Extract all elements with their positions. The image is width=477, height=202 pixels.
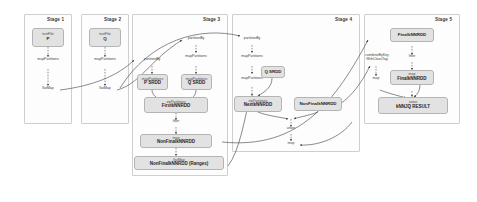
diagram-canvas: Stage 1 Stage 2 Stage 3 Stage 4 Stage 5 xyxy=(0,0,477,202)
stage-box-4 xyxy=(232,14,360,152)
edge-label-s2-flatmap: flatMap xyxy=(93,87,117,91)
combinebykey-line2: WithClassTag xyxy=(366,57,387,61)
edge-label-s4-partitionby: partitionBy xyxy=(235,37,269,41)
node-s4-nextknnrdd[interactable]: zipPartitions NextkNNRDD xyxy=(234,96,282,112)
edge-label-s3-filter: filter xyxy=(164,120,188,124)
node-rdd-label: FinalkNNRDD xyxy=(397,77,426,82)
node-s5-finalknnrdd-top[interactable]: FinalkNNRDD xyxy=(390,28,434,42)
edge-label-s2-mappartitions: mapPartitions xyxy=(88,58,122,62)
edge-label-s4-union: union xyxy=(279,127,303,131)
node-rdd-label: P xyxy=(47,37,50,42)
stage-title-3: Stage 3 xyxy=(203,17,220,22)
edge-label-s1-mappartitions: mapPartitions xyxy=(31,58,65,62)
node-rdd-label: P SRDD xyxy=(144,81,161,86)
edge-label-s5-combinebykey: combineByKeyWithClassTag xyxy=(358,54,396,62)
edge-label-s4-mappartitions-1: mapPartitions xyxy=(235,55,269,59)
edge-label-s3-partitionby-top: partitionBy xyxy=(179,37,213,41)
node-rdd-label: FinalkNNRDD xyxy=(398,33,427,38)
node-rdd-label: kNNJQ RESULT xyxy=(396,105,430,110)
node-s3-nonfinalknnrdd[interactable]: map NonFinalkNNRDD xyxy=(140,134,212,148)
edge-label-s5-map: map xyxy=(366,77,386,81)
edge-label-s3-partitionby-left: partitionBy xyxy=(135,58,169,62)
node-s5-knnjq-result[interactable]: union kNNJQ RESULT xyxy=(378,97,448,114)
node-s3-firstknnrdd[interactable]: zipPartitions FirstkNNRDD xyxy=(144,97,208,113)
node-rdd-label: Q SRDD xyxy=(188,81,206,86)
stage-title-4: Stage 4 xyxy=(335,17,352,22)
edge-label-s4-map: map xyxy=(281,142,301,146)
node-s3-p-srdd[interactable]: mapPartitions P SRDD xyxy=(137,74,168,90)
node-s4-nonfinalknnrdd[interactable]: NonFinalkNNRDD xyxy=(294,97,342,111)
edge-label-s3-mappartitions-top: mapPartitions xyxy=(179,55,213,59)
node-s5-finalknnrdd-map[interactable]: map FinalkNNRDD xyxy=(390,70,434,85)
stage-title-5: Stage 5 xyxy=(435,17,452,22)
node-rdd-label: Q SRDD xyxy=(264,70,281,75)
node-s1-textfile-p[interactable]: textFile P xyxy=(32,28,64,47)
edge-label-s1-flatmap: flatMap xyxy=(36,87,60,91)
edge-label-s5-filter: filter xyxy=(400,55,424,59)
node-rdd-label: NextkNNRDD xyxy=(244,103,273,108)
node-s3-q-srdd[interactable]: mapPartitions Q SRDD xyxy=(181,74,212,90)
stage-title-2: Stage 2 xyxy=(104,17,121,22)
node-s4-q-srdd[interactable]: Q SRDD xyxy=(261,66,285,78)
node-rdd-label: Q xyxy=(103,37,106,42)
node-rdd-label: NonFinalkNNRDD xyxy=(299,102,336,107)
node-rdd-label: NonFinalkNNRDD xyxy=(157,140,195,145)
node-rdd-label: NonFinalkNNRDD (Ranges) xyxy=(150,162,209,167)
node-s2-textfile-q[interactable]: textFile Q xyxy=(89,28,121,47)
node-s3-nonfinalknnrdd-ranges[interactable]: flatMap NonFinalkNNRDD (Ranges) xyxy=(134,156,224,170)
node-rdd-label: FirstkNNRDD xyxy=(162,104,191,109)
stage-title-1: Stage 1 xyxy=(47,17,64,22)
